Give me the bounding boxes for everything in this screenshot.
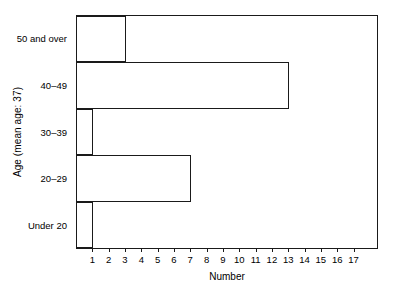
x-tick-mark-13 [288,249,289,252]
x-tick-label-12: 12 [267,253,278,267]
x-axis-tick-labels: 1234567891011121314151617 [76,253,378,267]
x-tick-mark-17 [354,249,355,252]
bar-chart-figure: Age (mean age: 37) Under 20 20–29 30–39 … [0,0,394,306]
y-tick-label-50-and-over: 50 and over [0,15,72,62]
bar-50-and-over [76,16,126,62]
x-tick-label-13: 13 [283,253,294,267]
x-tick-mark-2 [109,249,110,252]
bar-40-49 [76,62,289,108]
x-tick-mark-3 [125,249,126,252]
bar-30-39 [76,109,93,155]
x-axis-title: Number [76,270,378,284]
x-tick-mark-15 [321,249,322,252]
bar-row-30-39 [77,109,377,155]
bar-under-20 [76,202,93,248]
x-tick-label-15: 15 [316,253,327,267]
x-tick-label-17: 17 [348,253,359,267]
x-tick-mark-14 [305,249,306,252]
x-tick-mark-11 [256,249,257,252]
x-tick-label-2: 2 [106,253,111,267]
x-tick-mark-9 [223,249,224,252]
x-tick-label-16: 16 [332,253,343,267]
x-tick-mark-12 [272,249,273,252]
x-tick-label-7: 7 [188,253,193,267]
bar-row-50-and-over [77,16,377,62]
x-tick-mark-4 [141,249,142,252]
y-tick-label-under-20: Under 20 [0,202,72,249]
bar-row-20-29 [77,155,377,201]
x-tick-mark-8 [207,249,208,252]
x-tick-mark-10 [239,249,240,252]
x-tick-label-6: 6 [171,253,176,267]
x-tick-mark-16 [337,249,338,252]
x-tick-label-5: 5 [155,253,160,267]
x-tick-label-4: 4 [139,253,144,267]
y-axis-tick-labels: Under 20 20–29 30–39 40–49 50 and over [0,15,72,249]
bar-row-under-20 [77,202,377,248]
x-tick-label-11: 11 [251,253,261,267]
bar-20-29 [76,155,191,201]
x-tick-label-10: 10 [234,253,245,267]
x-tick-label-1: 1 [90,253,95,267]
y-tick-label-40-49: 40–49 [0,62,72,109]
x-tick-mark-7 [190,249,191,252]
x-tick-mark-5 [158,249,159,252]
x-tick-label-3: 3 [122,253,127,267]
bar-row-40-49 [77,62,377,108]
x-tick-label-8: 8 [204,253,209,267]
x-tick-label-14: 14 [299,253,310,267]
x-tick-mark-1 [92,249,93,252]
y-tick-label-30-39: 30–39 [0,109,72,156]
y-tick-label-20-29: 20–29 [0,155,72,202]
x-tick-label-9: 9 [220,253,225,267]
plot-area [76,15,378,249]
x-tick-mark-6 [174,249,175,252]
bars-layer [77,16,377,248]
